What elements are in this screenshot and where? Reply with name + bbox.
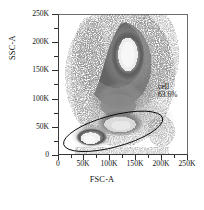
x-tick-label-100k: 100K	[96, 160, 122, 168]
y-tick-50k	[52, 127, 58, 128]
y-tick-250k	[52, 14, 58, 15]
x-tick-minor	[122, 155, 123, 158]
x-tick-minor	[96, 155, 97, 158]
y-tick-100k	[52, 99, 58, 100]
x-tick-label-0: 0	[48, 160, 68, 168]
y-tick-minor	[54, 56, 58, 57]
y-tick-label-50k: 50K	[36, 123, 49, 131]
x-axis-title: FSC-A	[0, 175, 204, 184]
x-tick-minor	[174, 155, 175, 158]
y-tick-minor	[54, 141, 58, 142]
y-tick-label-150k: 150K	[32, 66, 49, 74]
gate-percent-label: 63.6%	[158, 91, 178, 99]
y-tick-label-0: 0	[45, 151, 49, 159]
x-tick-minor	[71, 155, 72, 158]
cluster-lymphocytes	[71, 121, 114, 149]
y-tick-minor	[54, 113, 58, 114]
x-tick-label-50k: 50K	[72, 160, 94, 168]
y-tick-150k	[52, 70, 58, 71]
cytometry-plot-figure: cell 63.6% 250K 200K 150K 100K 50K 0	[0, 0, 204, 210]
cluster-granulocytes	[102, 23, 153, 90]
y-tick-label-200k: 200K	[32, 38, 49, 46]
y-tick-minor	[54, 84, 58, 85]
y-tick-label-250k: 250K	[32, 10, 49, 18]
y-axis-title: SSC-A	[8, 35, 17, 60]
y-tick-minor	[54, 28, 58, 29]
y-tick-label-100k: 100K	[32, 95, 49, 103]
axis-dust	[75, 147, 170, 154]
gate-annotation: cell 63.6%	[158, 83, 178, 100]
x-tick-label-150k: 150K	[122, 160, 148, 168]
x-tick-minor	[148, 155, 149, 158]
y-tick-200k	[52, 42, 58, 43]
x-tick-label-200k: 200K	[148, 160, 174, 168]
x-tick-label-250k: 250K	[174, 160, 200, 168]
